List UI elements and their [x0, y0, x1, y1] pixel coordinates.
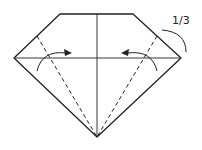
- left-fold-arrow: [37, 53, 66, 71]
- right-fold-arrow: [128, 53, 157, 71]
- one-third-label: 1/3: [172, 14, 190, 27]
- one-third-arc: [162, 30, 186, 52]
- diamond-outline: [14, 14, 181, 137]
- left-arrowhead-icon: [64, 49, 72, 56]
- right-arrowhead-icon: [121, 49, 129, 56]
